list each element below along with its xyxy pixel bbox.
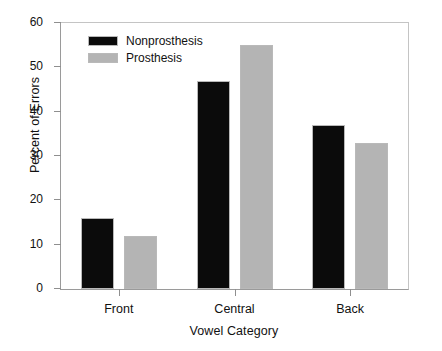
x-axis-tick xyxy=(235,289,236,296)
bar-front-prosthesis xyxy=(124,236,157,289)
x-axis-tick xyxy=(350,289,351,296)
x-axis-tick-label: Central xyxy=(214,302,254,316)
y-axis-tick-label: 0 xyxy=(36,281,43,295)
bar-chart-figure: Percent of Errors Nonprosthesis Prosthes… xyxy=(0,0,442,351)
legend-swatch-icon-nonprosthesis xyxy=(88,36,118,46)
plot-area: Nonprosthesis Prosthesis 0102030405060Fr… xyxy=(60,22,409,290)
y-axis-tick: 20 xyxy=(54,199,61,200)
legend-item-nonprosthesis: Nonprosthesis xyxy=(88,33,203,48)
legend-label-nonprosthesis: Nonprosthesis xyxy=(126,35,203,47)
y-axis-tick-label: 20 xyxy=(30,192,43,206)
bar-front-nonprosthesis xyxy=(81,218,114,289)
bar-back-prosthesis xyxy=(355,143,388,289)
y-axis-tick-label: 60 xyxy=(30,15,43,29)
y-axis-tick-label: 50 xyxy=(30,59,43,73)
legend-label-prosthesis: Prosthesis xyxy=(126,52,182,64)
bar-back-nonprosthesis xyxy=(312,125,345,289)
legend-swatch-icon-prosthesis xyxy=(88,53,118,63)
x-axis-tick-label: Front xyxy=(104,302,133,316)
y-axis-tick-label: 30 xyxy=(30,148,43,162)
y-axis-tick-label: 40 xyxy=(30,104,43,118)
x-axis-tick-label: Back xyxy=(336,302,364,316)
y-axis-tick: 60 xyxy=(54,22,61,23)
legend: Nonprosthesis Prosthesis xyxy=(88,33,203,67)
y-axis-tick-label: 10 xyxy=(30,237,43,251)
y-axis-tick: 30 xyxy=(54,155,61,156)
y-axis-tick: 40 xyxy=(54,111,61,112)
y-axis-tick: 10 xyxy=(54,244,61,245)
bar-central-prosthesis xyxy=(240,45,273,289)
y-axis-tick: 0 xyxy=(54,288,61,289)
x-axis-title: Vowel Category xyxy=(60,324,408,338)
legend-item-prosthesis: Prosthesis xyxy=(88,50,203,65)
y-axis-tick: 50 xyxy=(54,66,61,67)
bar-central-nonprosthesis xyxy=(197,81,230,289)
x-axis-tick xyxy=(119,289,120,296)
